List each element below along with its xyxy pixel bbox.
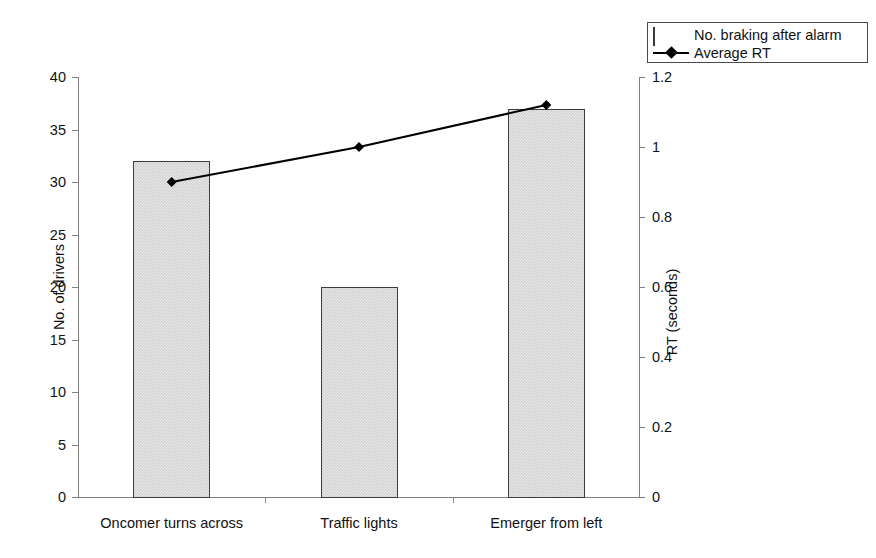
category-label: Traffic lights xyxy=(320,515,397,531)
left-tick-label: 15 xyxy=(22,332,66,348)
left-tick-label: 25 xyxy=(22,227,66,243)
left-tick-label: 35 xyxy=(22,122,66,138)
left-tick-label: 5 xyxy=(22,437,66,453)
category-label: Emerger from left xyxy=(490,515,602,531)
left-axis-title: No. of drivers xyxy=(51,244,67,330)
right-tick-label: 1 xyxy=(652,139,660,155)
legend-item-line[interactable]: Average RT xyxy=(653,44,862,62)
left-tick-label: 30 xyxy=(22,174,66,190)
left-tick-label: 0 xyxy=(22,489,66,505)
plot-area: 4035302520151050 1.210.80.60.40.20 Oncom… xyxy=(78,77,640,497)
line-series: Oncomer turns across: 0.9Traffic lights:… xyxy=(78,77,640,498)
legend-label-bars: No. braking after alarm xyxy=(694,26,841,44)
legend-item-bars[interactable]: No. braking after alarm xyxy=(653,26,862,44)
right-tick-label: 0.8 xyxy=(652,209,672,225)
line-marker[interactable]: Oncomer turns across: 0.9 xyxy=(167,177,177,187)
right-tick-label: 0.2 xyxy=(652,419,672,435)
category-label: Oncomer turns across xyxy=(100,515,243,531)
line-marker[interactable]: Traffic lights: 1 xyxy=(354,142,364,152)
left-tick-label: 10 xyxy=(22,384,66,400)
line-marker[interactable]: Emerger from left: 1.12 xyxy=(541,100,551,110)
right-tick-label: 1.2 xyxy=(652,69,672,85)
bar-swatch-icon xyxy=(653,28,689,42)
legend-label-line: Average RT xyxy=(694,44,771,62)
chart-container: No. braking after alarm Average RT 40353… xyxy=(0,0,876,558)
left-tick-label: 40 xyxy=(22,69,66,85)
right-tick-label: 0 xyxy=(652,489,660,505)
right-axis-title: RT (seconds) xyxy=(664,269,680,356)
chart-legend: No. braking after alarm Average RT xyxy=(647,22,868,63)
line-diamond-icon xyxy=(653,46,689,60)
